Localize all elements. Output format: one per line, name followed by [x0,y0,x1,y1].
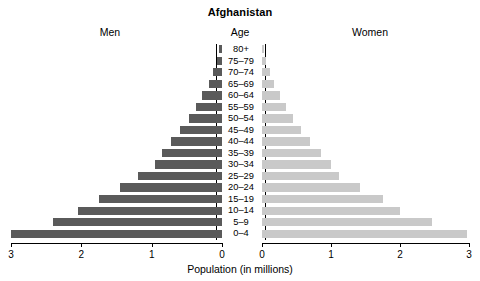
bar-women [262,114,293,122]
x-axis-title: Population (in millions) [0,263,480,275]
bar-men [155,160,222,168]
right-axis-2-tick [400,243,401,247]
bar-men [138,172,222,180]
left-axis-3-tick [11,243,12,247]
bar-women [262,183,360,191]
bar-row: 35–39 [0,148,480,159]
right-axis-3-tick [469,243,470,247]
right-axis-0-tick [262,243,263,247]
bar-row: 10–14 [0,205,480,216]
plot-area: 80+75–7970–7465–6960–6455–5950–5445–4940… [0,44,480,240]
age-group-label: 45–49 [218,125,264,136]
bar-row: 80+ [0,44,480,55]
bar-row: 65–69 [0,79,480,90]
age-group-label: 50–54 [218,113,264,124]
age-group-label: 0–4 [218,228,264,239]
age-group-label: 10–14 [218,205,264,216]
age-group-label: 40–44 [218,136,264,147]
bar-women [262,103,286,111]
men-column-label: Men [70,26,150,38]
right-x-axis-line [262,243,470,244]
bar-row: 75–79 [0,56,480,67]
bar-men [171,137,222,145]
bar-row: 5–9 [0,217,480,228]
left-axis-1-tick [152,243,153,247]
bar-women [262,207,400,215]
age-group-label: 5–9 [218,217,264,228]
bar-row: 25–29 [0,171,480,182]
bar-men [120,183,222,191]
bar-row: 15–19 [0,194,480,205]
bar-row: 45–49 [0,125,480,136]
women-column-label: Women [330,26,410,38]
bar-men [180,126,222,134]
age-group-label: 55–59 [218,102,264,113]
population-pyramid-chart: Afghanistan Men Age Women 80+75–7970–746… [0,0,480,281]
right-axis-1-tick [331,243,332,247]
bar-men [162,149,222,157]
age-group-label: 15–19 [218,194,264,205]
bar-women [262,230,467,238]
bar-women [262,172,339,180]
bar-women [262,195,383,203]
left-axis-0-tick [222,243,223,247]
bar-men [11,230,222,238]
bar-women [262,91,280,99]
bar-row: 50–54 [0,113,480,124]
bar-row: 55–59 [0,102,480,113]
bar-row: 70–74 [0,67,480,78]
bar-women [262,137,310,145]
bar-row: 40–44 [0,136,480,147]
left-axis-2-tick-label: 2 [69,249,93,260]
bar-women [262,126,301,134]
age-group-label: 60–64 [218,90,264,101]
bar-men [99,195,222,203]
bar-row: 20–24 [0,182,480,193]
left-axis-3-tick-label: 3 [0,249,23,260]
age-group-label: 70–74 [218,67,264,78]
left-x-axis-line [11,243,223,244]
left-axis-0-tick-label: 0 [210,249,234,260]
bar-row: 0–4 [0,228,480,239]
age-group-label: 25–29 [218,171,264,182]
age-group-label: 80+ [218,44,264,55]
right-axis-2-tick-label: 2 [388,249,412,260]
right-axis-3-tick-label: 3 [457,249,480,260]
age-group-label: 30–34 [218,159,264,170]
age-column-label: Age [200,26,280,38]
right-axis-0-tick-label: 0 [250,249,274,260]
chart-title: Afghanistan [0,6,480,18]
bar-women [262,218,432,226]
age-group-label: 20–24 [218,182,264,193]
bar-men [78,207,222,215]
bar-women [262,149,321,157]
left-axis-1-tick-label: 1 [140,249,164,260]
left-axis-2-tick [81,243,82,247]
bar-women [262,160,331,168]
age-group-label: 75–79 [218,56,264,67]
age-group-label: 65–69 [218,79,264,90]
bar-row: 30–34 [0,159,480,170]
bar-row: 60–64 [0,90,480,101]
bar-men [53,218,222,226]
age-group-label: 35–39 [218,148,264,159]
right-axis-1-tick-label: 1 [319,249,343,260]
